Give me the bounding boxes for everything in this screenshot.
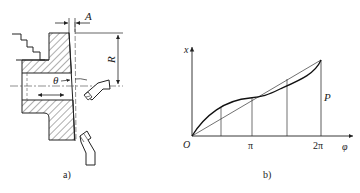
x-axis-label: φ [342,141,348,152]
workpiece-upper-section [22,33,72,73]
P-label: P [323,91,331,103]
label-A: A [84,10,92,22]
chuck-step-outline [12,34,45,60]
label-R: R [105,56,117,64]
lower-cutting-tool [80,131,95,165]
pi-label: π [248,140,253,151]
upper-cutting-tool [84,80,110,100]
workpiece-lower-section [22,100,75,140]
linear-chord [192,60,321,136]
diagram-canvas: A R θ a) [0,0,360,193]
two-pi-label: 2π [313,140,323,151]
figure-b: x O π 2π φ P b) [183,44,353,181]
caption-a: a) [63,169,71,181]
figure-a: A R θ a) [10,10,123,181]
label-theta: θ [53,74,59,86]
origin-label: O [183,139,190,150]
y-axis-label: x [183,44,189,55]
caption-b: b) [263,169,271,181]
